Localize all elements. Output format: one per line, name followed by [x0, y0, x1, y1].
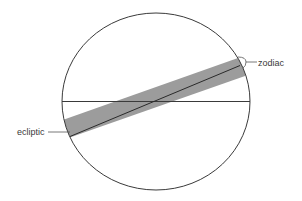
ecliptic-label: ecliptic [17, 127, 45, 137]
celestial-sphere-diagram: zodiac ecliptic [0, 0, 302, 201]
zodiac-band [40, 52, 262, 146]
zodiac-label: zodiac [258, 58, 285, 68]
